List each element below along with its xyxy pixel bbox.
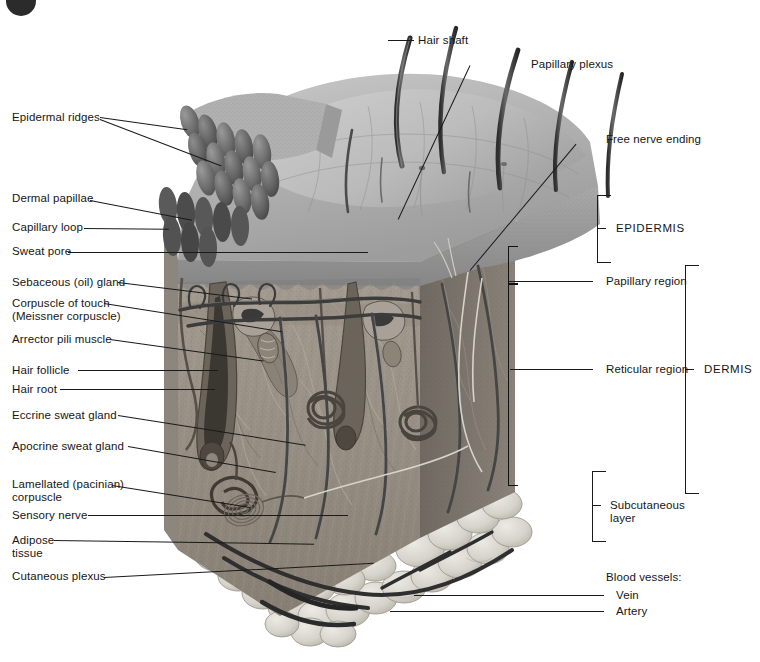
reticular-region-marker <box>508 284 518 486</box>
label-hair-follicle: Hair follicle <box>12 364 70 378</box>
leader-sweat-pore <box>68 252 368 253</box>
label-pacinian-corpuscle-line1: Lamellated (pacinian) <box>12 478 124 492</box>
label-meissner-corpuscle: (Meissner corpuscle) <box>12 310 121 324</box>
label-epidermis: EPIDERMIS <box>616 222 685 236</box>
label-dermal-papillae: Dermal papillae <box>12 192 93 206</box>
epidermis-bracket-tick <box>597 228 606 229</box>
label-corpuscle-of-touch: Corpuscle of touch <box>12 297 110 311</box>
leader-vein <box>414 595 604 596</box>
label-adipose-line1: Adipose <box>12 534 54 548</box>
epidermis-bracket <box>597 195 611 263</box>
leader-hair-shaft <box>388 40 414 41</box>
label-vein: Vein <box>616 589 639 603</box>
leader-papillary-region <box>508 281 593 282</box>
label-sensory-nerve: Sensory nerve <box>12 509 87 523</box>
label-adipose-line2: tissue <box>12 547 43 561</box>
figure-canvas: Epidermal ridges Dermal papillae Capilla… <box>0 0 760 662</box>
subcutaneous-bracket-tick <box>592 505 601 506</box>
label-subcutaneous-line2: layer <box>610 512 635 526</box>
leader-sensory-nerve <box>88 515 348 516</box>
figure-number-badge <box>6 0 36 16</box>
subcutaneous-bracket <box>592 471 606 542</box>
label-epidermal-ridges: Epidermal ridges <box>12 111 100 125</box>
label-pacinian-corpuscle-line2: corpuscle <box>12 491 62 505</box>
label-sebaceous-gland: Sebaceous (oil) gland <box>12 276 125 290</box>
label-eccrine-sweat-gland: Eccrine sweat gland <box>12 409 117 423</box>
label-apocrine-sweat-gland: Apocrine sweat gland <box>12 440 124 454</box>
label-capillary-loop: Capillary loop <box>12 221 83 235</box>
label-sweat-pore: Sweat pore <box>12 245 71 259</box>
label-free-nerve-ending: Free nerve ending <box>606 133 701 147</box>
label-dermis: DERMIS <box>704 363 752 377</box>
label-reticular-region: Reticular region <box>606 363 688 377</box>
label-arrector-pili-muscle: Arrector pili muscle <box>12 333 112 347</box>
label-blood-vessels: Blood vessels: <box>606 571 682 585</box>
dermis-bracket <box>685 265 699 494</box>
label-hair-shaft: Hair shaft <box>418 34 468 48</box>
label-hair-root: Hair root <box>12 383 57 397</box>
label-subcutaneous-line1: Subcutaneous <box>610 499 685 513</box>
leader-hair-root <box>60 389 215 390</box>
label-cutaneous-plexus: Cutaneous plexus <box>12 570 106 584</box>
leader-hair-follicle <box>78 370 218 371</box>
label-papillary-plexus: Papillary plexus <box>531 58 613 72</box>
label-artery: Artery <box>616 605 647 619</box>
label-papillary-region: Papillary region <box>606 275 687 289</box>
leader-artery <box>390 611 604 612</box>
papillary-region-marker <box>508 246 518 284</box>
leader-reticular-region <box>510 369 593 370</box>
skin-illustration <box>120 10 640 655</box>
